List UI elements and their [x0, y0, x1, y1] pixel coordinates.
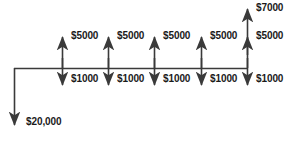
label-inflow-2: $5000 [117, 31, 144, 41]
label-outflow-2: $1000 [117, 74, 144, 84]
label-outflow-1: $1000 [71, 74, 98, 84]
label-salvage-5: $7000 [256, 3, 283, 13]
label-outflow-3: $1000 [163, 74, 190, 84]
label-inflow-3: $5000 [163, 31, 190, 41]
label-inflow-1: $5000 [71, 31, 98, 41]
label-outflow-4: $1000 [210, 74, 237, 84]
label-initial-investment: $20,000 [26, 117, 61, 127]
label-inflow-4: $5000 [210, 31, 237, 41]
label-inflow-5: $5000 [256, 31, 283, 41]
cash-flow-diagram: $5000 $1000 $5000 $1000 $5000 $1000 $500… [0, 0, 286, 143]
label-outflow-5: $1000 [256, 74, 283, 84]
